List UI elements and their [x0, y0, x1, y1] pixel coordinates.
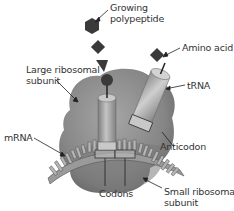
codon-box-1 — [95, 150, 115, 158]
label-anticodon-text: Anticodon — [160, 141, 206, 152]
circle-residue — [101, 74, 113, 86]
amino-acid-shape — [150, 48, 164, 62]
codon-boxes — [95, 150, 135, 158]
label-codons: Codons — [99, 188, 133, 199]
codon-box-2 — [115, 150, 135, 158]
label-large-ribosomal-subunit: Large ribosomal subunit — [26, 64, 100, 86]
label-large-line1: Large ribosomal — [26, 64, 100, 75]
label-growing-polypeptide: Growing polypeptide — [110, 2, 164, 24]
label-small-ribosomal-subunit: Small ribosomal subunit — [164, 186, 234, 208]
label-amino-acid-text: Amino acid — [182, 42, 233, 53]
label-small-line1: Small ribosomal — [164, 186, 234, 197]
label-mrna-text: mRNA — [4, 132, 33, 143]
label-polypeptide-line2: polypeptide — [110, 13, 164, 24]
label-trna-text: tRNA — [187, 80, 210, 91]
diagram-graphic — [0, 0, 234, 211]
square-residue — [91, 40, 105, 54]
label-growing-line1: Growing — [110, 2, 164, 13]
label-codons-text: Codons — [99, 188, 133, 199]
label-trna: tRNA — [187, 80, 210, 91]
label-small-line2: subunit — [164, 197, 234, 208]
label-amino-acid: Amino acid — [182, 42, 233, 53]
label-mrna: mRNA — [4, 132, 33, 143]
label-anticodon: Anticodon — [160, 141, 206, 152]
label-large-line2: subunit — [26, 75, 100, 86]
ribosome-diagram: Growing polypeptide Amino acid Large rib… — [0, 0, 234, 211]
